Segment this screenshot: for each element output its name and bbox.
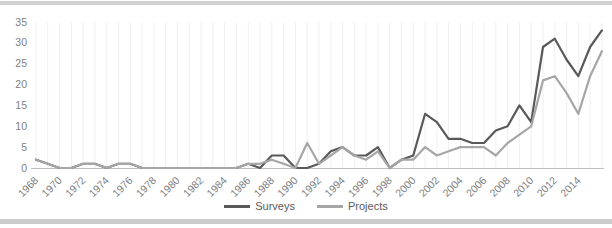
y-tick-label: 30 xyxy=(15,36,27,48)
x-tick-label: 1970 xyxy=(39,174,64,199)
projects-line-swatch xyxy=(317,205,343,208)
legend-item-surveys: Surveys xyxy=(224,201,295,212)
gridlines xyxy=(36,22,602,168)
x-tick-label: 1982 xyxy=(180,174,205,199)
x-tick-label: 1986 xyxy=(228,174,253,199)
y-tick-label: 5 xyxy=(21,141,27,153)
x-tick-label: 1998 xyxy=(369,174,394,199)
x-tick-label: 1974 xyxy=(86,174,111,199)
line-chart-svg: 0510152025303519681970197219741976197819… xyxy=(0,0,612,228)
x-tick-label: 1996 xyxy=(346,174,371,199)
y-tick-label: 35 xyxy=(15,16,27,28)
x-tick-label: 2000 xyxy=(393,174,418,199)
x-tick-label: 1994 xyxy=(322,174,347,199)
y-tick-label: 15 xyxy=(15,99,27,111)
x-tick-label: 1992 xyxy=(298,174,323,199)
x-tick-label: 1968 xyxy=(15,174,40,199)
x-tick-label: 2006 xyxy=(463,174,488,199)
x-tick-label: 2012 xyxy=(534,174,559,199)
legend-item-projects: Projects xyxy=(317,201,388,212)
x-tick-label: 1988 xyxy=(251,174,276,199)
legend-label-surveys: Surveys xyxy=(255,201,295,212)
y-axis-tick-labels: 05101520253035 xyxy=(15,16,27,174)
x-tick-label: 2008 xyxy=(487,174,512,199)
x-tick-label: 1976 xyxy=(110,174,135,199)
y-tick-label: 0 xyxy=(21,162,27,174)
line-chart[interactable]: 0510152025303519681970197219741976197819… xyxy=(0,0,612,228)
legend-label-projects: Projects xyxy=(348,201,388,212)
y-tick-label: 20 xyxy=(15,78,27,90)
x-tick-label: 1978 xyxy=(133,174,158,199)
chart-legend: Surveys Projects xyxy=(0,199,612,213)
x-tick-label: 1972 xyxy=(63,174,88,199)
surveys-line-swatch xyxy=(224,205,250,208)
x-tick-label: 2002 xyxy=(416,174,441,199)
x-tick-label: 2014 xyxy=(558,174,583,199)
x-axis-tick-labels: 1968197019721974197619781980198219841986… xyxy=(15,174,582,199)
y-tick-label: 10 xyxy=(15,120,27,132)
x-tick-label: 2010 xyxy=(511,174,536,199)
x-tick-label: 1980 xyxy=(157,174,182,199)
x-tick-label: 1984 xyxy=(204,174,229,199)
x-tick-label: 2004 xyxy=(440,174,465,199)
y-tick-label: 25 xyxy=(15,57,27,69)
x-tick-label: 1990 xyxy=(275,174,300,199)
